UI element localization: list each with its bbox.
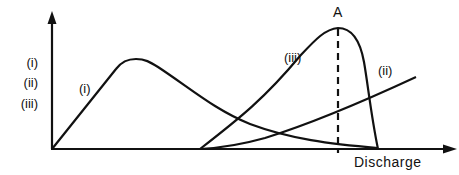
discharge-diagram: (i) (ii) (iii) (i) (iii) (ii) A Discharg… (0, 0, 459, 175)
legend-item-iii: (iii) (8, 97, 38, 110)
x-axis-label: Discharge (354, 156, 422, 169)
x-axis-arrow-icon (443, 145, 457, 154)
curve-ii (200, 77, 416, 149)
curve-label-iii: (iii) (284, 51, 301, 64)
legend-item-ii: (ii) (8, 76, 38, 89)
curve-i (52, 59, 378, 149)
curve-label-ii: (ii) (378, 64, 392, 77)
curve-label-i: (i) (79, 82, 91, 95)
marker-label-a: A (333, 6, 342, 19)
diagram-canvas (0, 0, 459, 175)
legend-item-i: (i) (8, 56, 38, 69)
y-axis-arrow-icon (48, 11, 57, 24)
